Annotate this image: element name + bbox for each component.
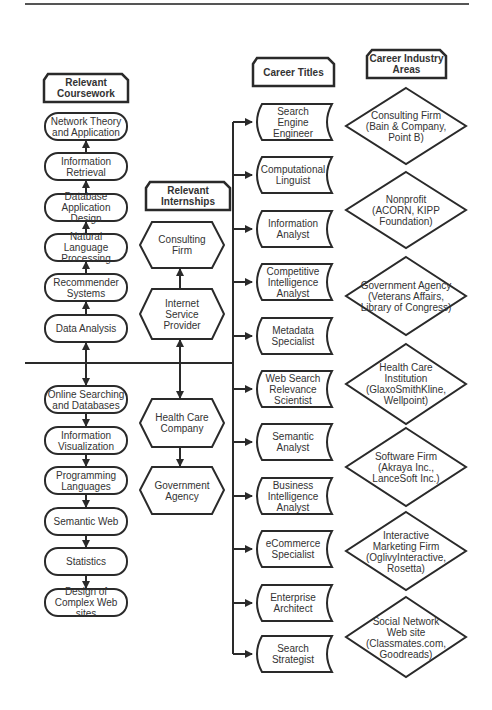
course-node: Statistics (45, 548, 127, 575)
industry-area-node: Nonprofit (ACORN, KIPP Foundation) (366, 186, 446, 234)
course-node: Programming Languages (45, 467, 127, 494)
industry-area-node: Health Care Institution (GlaxoSmithKline… (360, 356, 452, 412)
course-node: Information Visualization (45, 427, 127, 454)
career-title-node: Competitive Intelligence Analyst (260, 264, 326, 300)
header-career-titles: Career Titles (253, 58, 334, 86)
header-relevant-coursework: Relevant Coursework (44, 74, 128, 102)
career-title-node: Semantic Analyst (258, 424, 328, 460)
header-relevant-internships: Relevant Internships (146, 182, 230, 210)
header-career-industry-areas: Career Industry Areas (367, 50, 446, 78)
course-node: Information Retrieval (45, 153, 127, 180)
career-title-node: Computational Linguist (260, 157, 326, 193)
career-title-node: Business Intelligence Analyst (260, 478, 326, 514)
course-node: Natural Language Processing (45, 234, 127, 261)
industry-area-node: Interactive Marketing Firm (OglivyIntera… (360, 524, 452, 580)
course-node: Database Application Design (45, 194, 127, 221)
career-title-node: Metadata Specialist (260, 318, 326, 354)
internship-node: Consulting Firm (152, 222, 212, 268)
industry-area-node: Software Firm (Akraya Inc., LanceSoft In… (360, 442, 452, 492)
industry-area-node: Social Network Web site (Classmates.com,… (360, 610, 452, 666)
internship-node: Internet Service Provider (152, 289, 212, 339)
course-node: Online Searching and Databases (45, 386, 127, 413)
career-title-node: Information Analyst (260, 211, 326, 247)
course-node: Design of Complex Web sites (45, 589, 127, 616)
career-title-node: Search Engine Engineer (260, 104, 326, 140)
career-title-node: Search Strategist (256, 636, 330, 672)
internship-node: Government Agency (152, 467, 212, 514)
course-node: Network Theory and Application (45, 113, 127, 140)
career-title-node: eCommerce Specialist (260, 531, 326, 567)
industry-area-node: Consulting Firm (Bain & Company, Point B… (360, 100, 452, 152)
career-title-node: Enterprise Architect (260, 585, 326, 621)
career-title-node: Web Search Relevance Scientist (260, 371, 326, 407)
industry-area-node: Government Agency (Veterans Affairs, Lib… (356, 270, 456, 322)
course-node: Semantic Web (45, 508, 127, 535)
course-node: Data Analysis (45, 315, 127, 342)
course-node: Recommender Systems (45, 274, 127, 301)
internship-node: Health Care Company (152, 399, 212, 447)
